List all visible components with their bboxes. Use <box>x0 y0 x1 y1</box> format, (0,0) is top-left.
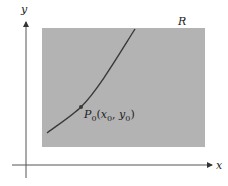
region-label: R <box>177 15 186 28</box>
region-r <box>42 28 205 147</box>
x-axis-label: x <box>216 159 223 172</box>
diagram-canvas: y x R P0(x0, y0) <box>0 0 228 186</box>
point-p0 <box>79 105 83 109</box>
y-axis-label: y <box>20 3 28 16</box>
